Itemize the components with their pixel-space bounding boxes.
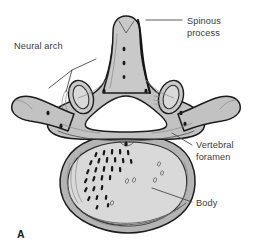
figure-root: Spinous process Neural arch Vertebral fo… <box>0 0 253 249</box>
tp-right-shape <box>178 96 240 131</box>
body-cancellous-area <box>68 142 187 226</box>
label-body: Body <box>196 198 218 208</box>
label-spinous-process-line2: process <box>187 28 220 38</box>
vertebral-body <box>60 134 195 233</box>
label-vertebral-foramen-line2: foramen <box>196 152 230 162</box>
transverse-process-right <box>178 96 240 131</box>
panel-letter: A <box>17 228 25 240</box>
vertebra-diagram: Spinous process Neural arch Vertebral fo… <box>0 0 253 249</box>
transverse-process-left <box>12 96 74 131</box>
label-spinous-process-line1: Spinous <box>187 16 221 26</box>
label-vertebral-foramen-line1: Vertebral <box>196 140 234 150</box>
label-neural-arch: Neural arch <box>14 41 63 51</box>
tp-left-speck <box>46 111 49 115</box>
spinous-process <box>103 16 150 93</box>
tp-left-shape <box>12 96 74 131</box>
